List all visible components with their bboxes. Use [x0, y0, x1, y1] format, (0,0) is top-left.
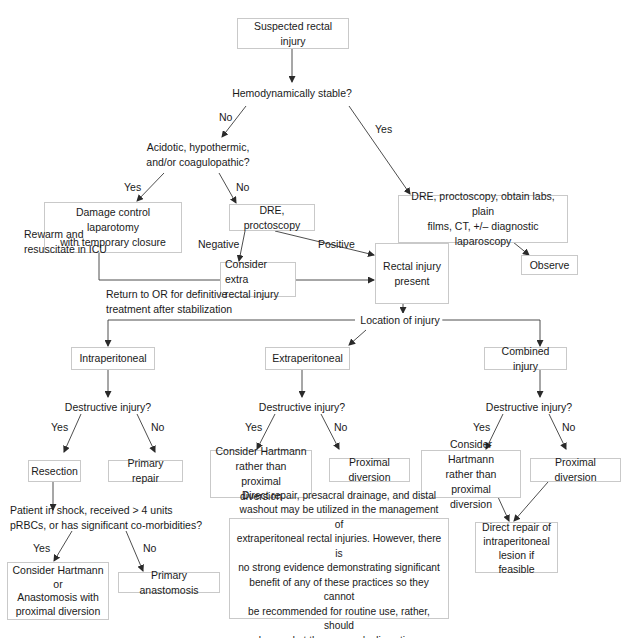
label-location-of-injury: Location of injury — [357, 313, 442, 328]
label-rewarm-resuscitate: Rewarm and resuscitate in ICU — [24, 227, 107, 257]
edge-label-no: No — [562, 420, 575, 434]
edge-label-yes: Yes — [375, 122, 392, 136]
edge-label-negative: Negative — [198, 237, 239, 251]
edge-label-no: No — [236, 180, 249, 194]
edge-label-no: No — [334, 420, 347, 434]
question-destructive-extraperitoneal: Destructive injury? — [259, 400, 345, 415]
edge-label-yes: Yes — [124, 180, 141, 194]
edge-label-yes: Yes — [51, 420, 68, 434]
node-proximal-diversion-extraperitoneal: Proximal diversion — [329, 458, 410, 482]
note-extraperitoneal-management: Direct repair, presacral drainage, and d… — [229, 518, 449, 619]
edge-label-yes: Yes — [473, 420, 490, 434]
node-hartmann-or-anastomosis: Consider Hartmann or Anastomosis with pr… — [7, 562, 109, 620]
node-dre-full-workup: DRE, proctoscopy, obtain labs, plain fil… — [398, 195, 568, 243]
label-return-to-or: Return to OR for definitive treatment af… — [106, 287, 232, 317]
node-resection: Resection — [28, 460, 81, 482]
node-combined-injury: Combined injury — [484, 347, 567, 370]
node-rectal-injury-present: Rectal injury present — [375, 243, 449, 304]
node-observe: Observe — [521, 255, 578, 275]
edge-label-yes: Yes — [33, 541, 50, 555]
node-dre-proctoscopy: DRE, proctoscopy — [229, 204, 315, 231]
node-direct-repair-intraperitoneal: Direct repair of intraperitoneal lesion … — [475, 522, 558, 573]
question-shock-transfusion-comorbidities: Patient in shock, received > 4 units pRB… — [10, 503, 202, 533]
question-hemodynamically-stable: Hemodynamically stable? — [232, 86, 352, 101]
node-extraperitoneal: Extraperitoneal — [265, 347, 350, 370]
edge-label-no: No — [219, 110, 232, 124]
edge-label-positive: Positive — [318, 237, 355, 251]
question-acidotic-hypothermic-coagulopathic: Acidotic, hypothermic, and/or coagulopat… — [146, 140, 249, 170]
node-proximal-diversion-combined: Proximal diversion — [530, 458, 621, 482]
question-destructive-intraperitoneal: Destructive injury? — [65, 400, 151, 415]
start-node-suspected-rectal-injury: Suspected rectal injury — [237, 18, 349, 49]
node-primary-repair: Primary repair — [108, 460, 183, 482]
node-intraperitoneal: Intraperitoneal — [71, 347, 155, 370]
node-primary-anastomosis: Primary anastomosis — [118, 572, 220, 593]
question-destructive-combined: Destructive injury? — [486, 400, 572, 415]
edge-label-no: No — [143, 541, 156, 555]
edge-label-no: No — [151, 420, 164, 434]
rectal-injury-flowchart: Suspected rectal injury Hemodynamically … — [0, 0, 631, 638]
edge-label-yes: Yes — [245, 420, 262, 434]
